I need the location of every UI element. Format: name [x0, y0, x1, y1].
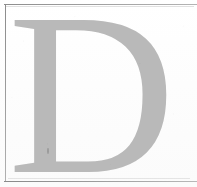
dropcap-glyph-text: D [14, 6, 176, 178]
dropcap-letter-d: D [14, 6, 186, 178]
scanned-page: D [0, 0, 197, 187]
ink-density-speck [47, 148, 49, 154]
dropcap-container: D [0, 0, 197, 187]
